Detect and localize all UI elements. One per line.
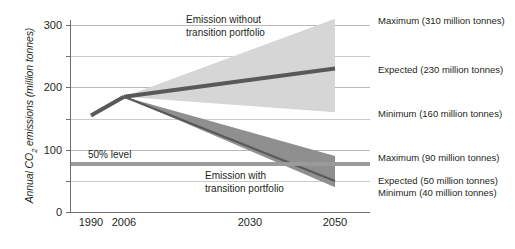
x-tick-label-2006: 2006 <box>99 216 149 228</box>
y-tick-label-300: 300 <box>20 19 62 31</box>
legend-lower-expected: Expected (50 million tonnes) <box>378 175 498 187</box>
y-tick-label-200: 200 <box>20 81 62 93</box>
y-tickmark-100 <box>66 150 70 151</box>
legend-lower-maximum: Maximum (90 million tonnes) <box>378 152 499 164</box>
y-tickmark-200 <box>66 87 70 88</box>
upper-fan-annotation: Emission without transition portfolio <box>186 14 265 39</box>
lower-fan-annotation-line1: Emission with <box>205 170 284 183</box>
y-tick-label-0: 0 <box>20 206 62 218</box>
y-tickmark-250 <box>66 56 70 57</box>
legend-lower-minimum: Minimum (40 million tonnes) <box>378 187 497 199</box>
historical-line <box>91 97 124 116</box>
y-tickmark-0 <box>66 212 70 213</box>
y-axis-line <box>70 20 71 213</box>
upper-fan-annotation-line1: Emission without <box>186 14 265 27</box>
y-tickmark-50 <box>66 181 70 182</box>
y-tickmark-300 <box>66 25 70 26</box>
x-tick-label-2050: 2050 <box>310 216 360 228</box>
y-tickmark-150 <box>66 119 70 120</box>
x-axis-line <box>70 212 370 213</box>
legend-upper-minimum: Minimum (160 million tonnes) <box>378 108 502 120</box>
legend-upper-maximum: Maximum (310 million tonnes) <box>378 15 505 27</box>
legend-upper-expected: Expected (230 million tonnes) <box>378 64 503 76</box>
chart-figure: Annual CO2 emissions (million tonnes) 50… <box>0 0 515 249</box>
reference-line-50-percent <box>70 162 370 166</box>
lower-fan-annotation-line2: transition portfolio <box>205 183 284 196</box>
x-tick-label-2030: 2030 <box>225 216 275 228</box>
lower-fan-annotation: Emission with transition portfolio <box>205 170 284 195</box>
y-tick-label-100: 100 <box>20 144 62 156</box>
reference-line-label: 50% level <box>88 149 131 162</box>
upper-fan-annotation-line2: transition portfolio <box>186 27 265 40</box>
